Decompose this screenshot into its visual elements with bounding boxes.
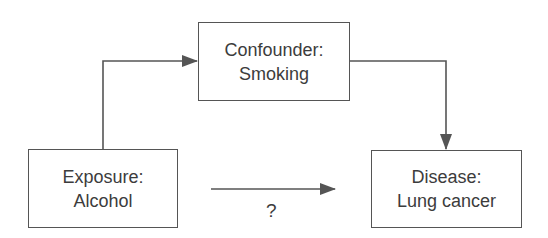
- exposure-label-line2: Alcohol: [73, 189, 132, 213]
- edge-exposure-to-confounder: [103, 61, 197, 149]
- question-mark-label: ?: [266, 200, 277, 222]
- disease-node: Disease: Lung cancer: [371, 150, 522, 228]
- confounder-label-line1: Confounder:: [224, 38, 323, 62]
- disease-label-line1: Disease:: [411, 165, 481, 189]
- confounder-label-line2: Smoking: [239, 62, 309, 86]
- exposure-node: Exposure: Alcohol: [28, 149, 178, 228]
- exposure-label-line1: Exposure:: [62, 165, 143, 189]
- edge-confounder-to-disease: [349, 61, 446, 149]
- disease-label-line2: Lung cancer: [397, 189, 496, 213]
- confounder-node: Confounder: Smoking: [198, 22, 350, 101]
